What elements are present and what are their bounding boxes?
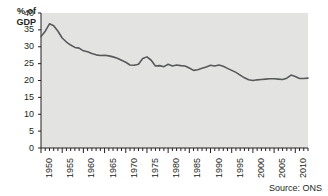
x-tick-label: 1985 xyxy=(193,158,202,178)
x-tick-label: 2005 xyxy=(278,158,287,178)
x-tick-label: 1960 xyxy=(87,158,96,178)
x-tick-label: 1955 xyxy=(66,158,75,178)
y-tick-label: 15 xyxy=(16,93,34,102)
y-tick-label: 20 xyxy=(16,76,34,85)
x-tick-label: 2010 xyxy=(299,158,308,178)
y-tick-label: 0 xyxy=(16,144,34,153)
x-tick-label: 1980 xyxy=(172,158,181,178)
x-tick-label: 1970 xyxy=(130,158,139,178)
y-tick-label: 35 xyxy=(16,25,34,34)
x-tick-label: 1965 xyxy=(109,158,118,178)
x-tick-label: 2000 xyxy=(257,158,266,178)
x-tick-label: 1975 xyxy=(151,158,160,178)
y-tick-label: 10 xyxy=(16,110,34,119)
source-note: Source: ONS xyxy=(269,183,322,193)
x-tick-label: 1990 xyxy=(215,158,224,178)
x-tick-label: 1950 xyxy=(45,158,54,178)
y-tick-label: 25 xyxy=(16,59,34,68)
y-tick-label: 5 xyxy=(16,127,34,136)
chart-figure: % of GDP 0510152025303540 19501955196019… xyxy=(0,0,328,196)
y-tick-label: 30 xyxy=(16,42,34,51)
y-tick-label: 40 xyxy=(16,9,34,18)
x-tick-label: 1995 xyxy=(236,158,245,178)
